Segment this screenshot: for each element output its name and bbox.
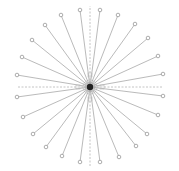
center-hub [83, 80, 97, 94]
leaf-node-6[interactable] [133, 22, 137, 26]
leaf-node-20[interactable] [134, 144, 138, 148]
leaf-node-7[interactable] [30, 38, 34, 42]
leaf-node-2[interactable] [98, 8, 102, 12]
leaf-node-12[interactable] [161, 72, 165, 76]
leaf-node-8[interactable] [146, 36, 150, 40]
leaf-node-16[interactable] [156, 113, 160, 117]
leaf-node-10[interactable] [156, 54, 160, 58]
leaf-node-5[interactable] [43, 23, 47, 27]
leaf-node-3[interactable] [59, 13, 63, 17]
leaf-node-4[interactable] [116, 13, 120, 17]
leaf-node-23[interactable] [78, 160, 82, 164]
leaf-node-18[interactable] [145, 132, 149, 136]
leaf-node-13[interactable] [15, 95, 19, 99]
leaf-node-17[interactable] [31, 132, 35, 136]
leaf-node-14[interactable] [161, 94, 165, 98]
leaf-node-21[interactable] [60, 154, 64, 158]
leaf-node-1[interactable] [78, 8, 82, 12]
spoke-edge [33, 87, 90, 134]
leaf-node-11[interactable] [15, 73, 19, 77]
diagram-canvas [0, 0, 179, 171]
radial-diagram [0, 0, 179, 171]
leaf-node-19[interactable] [44, 145, 48, 149]
leaf-node-22[interactable] [117, 155, 121, 159]
spoke-edge [90, 87, 147, 134]
leaf-node-15[interactable] [21, 115, 25, 119]
spoke-edge [90, 38, 148, 87]
leaf-node-9[interactable] [20, 55, 24, 59]
leaf-node-24[interactable] [98, 160, 102, 164]
center-node[interactable] [87, 84, 93, 90]
